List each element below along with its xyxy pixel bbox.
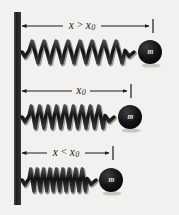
mass-shadow-natural	[121, 128, 140, 132]
mass-label-natural: m	[128, 112, 134, 121]
spring-mass-figure: x>x0mx0mx<x0m	[0, 0, 179, 215]
mass-shadow-compressed	[102, 191, 121, 195]
fixed-wall	[14, 12, 21, 205]
mass-label-compressed: m	[109, 175, 115, 184]
mass-label-stretched: m	[148, 47, 154, 56]
figure-canvas: x>x0mx0mx<x0m	[0, 0, 179, 215]
mass-shadow-stretched	[141, 63, 160, 67]
